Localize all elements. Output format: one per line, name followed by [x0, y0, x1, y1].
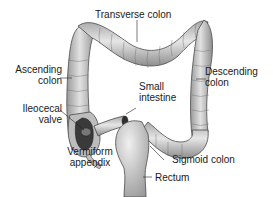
label-small-intestine-line1: Small: [139, 81, 176, 92]
label-transverse-colon: Transverse colon: [95, 9, 171, 20]
large-intestine-diagram: [0, 0, 273, 197]
label-ascending-colon-line2: colon: [12, 75, 62, 86]
label-ileocecal-valve-line2: valve: [10, 114, 62, 125]
ileocecal-valve-shape: [81, 128, 91, 136]
label-vermiform-appendix-line2: appendix: [62, 157, 118, 168]
label-descending-colon: Descending colon: [205, 66, 258, 88]
label-ascending-colon-line1: Ascending: [12, 64, 62, 75]
leader-small-intestine: [126, 108, 136, 114]
label-rectum: Rectum: [155, 172, 189, 183]
label-ascending-colon: Ascending colon: [12, 64, 62, 86]
label-small-intestine: Small intestine: [139, 81, 176, 103]
transverse-colon: [78, 21, 208, 66]
rectum: [116, 121, 149, 197]
label-ileocecal-valve-line1: Ileocecal: [10, 103, 62, 114]
label-sigmoid-colon: Sigmoid colon: [172, 154, 235, 165]
label-descending-colon-line1: Descending: [205, 66, 258, 77]
label-small-intestine-line2: intestine: [139, 92, 176, 103]
label-vermiform-appendix-line1: Vermiform: [62, 146, 118, 157]
label-vermiform-appendix: Vermiform appendix: [62, 146, 118, 168]
label-ileocecal-valve: Ileocecal valve: [10, 103, 62, 125]
label-descending-colon-line2: colon: [205, 77, 258, 88]
